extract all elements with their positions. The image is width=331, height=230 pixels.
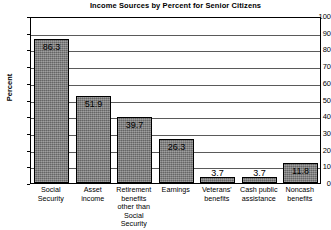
bar bbox=[34, 39, 69, 183]
x-category-label: Noncashbenefits bbox=[277, 186, 323, 203]
gridline bbox=[31, 35, 320, 36]
x-category-label: Assetincome bbox=[70, 186, 116, 203]
bar-chart: Income Sources by Percent for Senior Cit… bbox=[0, 0, 331, 230]
bar-value-label: 51.9 bbox=[76, 99, 111, 109]
gridline bbox=[31, 118, 320, 119]
x-category-label: SocialSecurity bbox=[28, 186, 74, 203]
gridline bbox=[31, 102, 320, 103]
plot-area: 86.351.939.726.33.73.711.8 bbox=[30, 17, 321, 184]
bar-value-label: 26.3 bbox=[159, 142, 194, 152]
x-category-line: benefits bbox=[194, 195, 240, 204]
chart-title: Income Sources by Percent for Senior Cit… bbox=[30, 1, 321, 10]
gridline bbox=[31, 85, 320, 86]
bar-value-label: 86.3 bbox=[34, 42, 69, 52]
bar-value-label: 3.7 bbox=[242, 168, 277, 178]
x-category-line: Earnings bbox=[153, 186, 199, 195]
x-category-label: Earnings bbox=[153, 186, 199, 195]
bar-value-label: 11.8 bbox=[283, 166, 318, 176]
gridline bbox=[31, 51, 320, 52]
x-category-line: Social Security bbox=[111, 212, 157, 229]
x-category-label: Veterans'benefits bbox=[194, 186, 240, 203]
x-category-line: Security bbox=[28, 195, 74, 204]
y-tick-mark bbox=[27, 184, 30, 185]
gridline bbox=[31, 135, 320, 136]
gridline bbox=[31, 68, 320, 69]
x-category-line: income bbox=[70, 195, 116, 204]
y-axis-label: Percent bbox=[5, 58, 14, 118]
x-category-line: assistance bbox=[236, 195, 282, 204]
plot-inner: 86.351.939.726.33.73.711.8 bbox=[31, 18, 320, 183]
bar-value-label: 3.7 bbox=[200, 168, 235, 178]
bar bbox=[76, 96, 111, 183]
x-category-label: Cash publicassistance bbox=[236, 186, 282, 203]
bar-value-label: 39.7 bbox=[117, 120, 152, 130]
x-category-line: benefits bbox=[277, 195, 323, 204]
x-category-label: Retirementbenefitsother thanSocial Secur… bbox=[111, 186, 157, 229]
